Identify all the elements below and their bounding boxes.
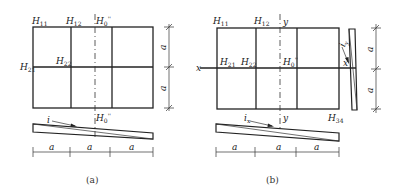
dim-a-h-1: a xyxy=(49,142,54,152)
label-h0-top-a: H0'' xyxy=(95,15,111,27)
label-y-top-b: y xyxy=(282,17,289,27)
dim-a-v-2: a xyxy=(158,86,168,91)
dim-b-v-2: a xyxy=(365,88,375,93)
label-h11-a: H11 xyxy=(31,16,48,27)
caption-a: (a) xyxy=(86,175,98,185)
label-h12-a: H12 xyxy=(65,16,82,27)
dim-a-h-2: a xyxy=(87,142,92,152)
label-h0-b: H0'' xyxy=(282,56,298,68)
diagram-canvas: H11 H12 H0'' H21 H22 H0'' a a i a a a (a… xyxy=(0,0,400,194)
dim-a-v-1: a xyxy=(158,45,168,50)
label-h22-b: H22 xyxy=(240,57,257,68)
label-h21-b: H21 xyxy=(219,57,236,68)
dim-b-v-1: a xyxy=(365,47,375,52)
figure-a: H11 H12 H0'' H21 H22 H0'' a a i a a a (a… xyxy=(19,14,174,185)
dim-b-h-3: a xyxy=(314,142,319,152)
label-h22-a: H22 xyxy=(55,56,72,67)
dim-a-h-3: a xyxy=(129,142,134,152)
label-h0-bottom-a: H0'' xyxy=(95,112,111,124)
label-h34-b: H34 xyxy=(327,113,344,124)
label-y-bottom-b: y xyxy=(282,113,289,123)
label-slope-i-a: i xyxy=(47,115,50,125)
dim-b-h-2: a xyxy=(276,142,281,152)
label-x-left-b: x xyxy=(196,63,201,73)
label-slope-ix-b: ix xyxy=(244,113,251,124)
label-h12-b: H12 xyxy=(253,16,270,27)
dim-b-h-1: a xyxy=(232,142,237,152)
label-h11-b: H11 xyxy=(212,16,229,27)
figure-b: H11 H12 y H21 H22 H0'' x x y H34 iy a a … xyxy=(196,14,381,185)
caption-b: (b) xyxy=(266,175,279,185)
